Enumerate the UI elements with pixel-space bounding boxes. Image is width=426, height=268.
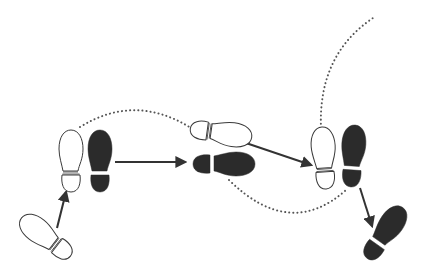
footprint-1-left-outline-icon	[14, 208, 78, 265]
footprint-5-right-filled-icon	[193, 152, 255, 176]
dance-step-diagram: left foot (outline) right foot (solid)	[0, 0, 426, 268]
footprint-3-right-filled-icon	[88, 130, 112, 192]
dotted-path-1	[80, 110, 191, 128]
footprint-8-right-filled-icon	[357, 201, 412, 266]
footprint-2-left-outline-icon	[59, 130, 83, 192]
footprint-layer	[14, 117, 412, 266]
footprint-4-left-outline-icon	[189, 117, 254, 149]
step-arrow-4	[360, 188, 372, 226]
footprint-6-left-outline-icon	[310, 126, 338, 190]
diagram-canvas	[0, 0, 426, 268]
dotted-path-3	[321, 18, 373, 128]
footprint-7-right-filled-icon	[339, 124, 367, 188]
step-arrow-1	[57, 192, 66, 228]
